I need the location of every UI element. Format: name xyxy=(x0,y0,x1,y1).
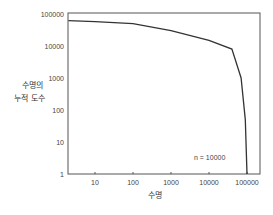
x-tick-label: 1000 xyxy=(163,179,179,186)
x-axis-label: 수명 xyxy=(148,190,162,200)
chart-svg: 110100100010000100000 101001000100001000… xyxy=(0,0,273,215)
y-tick-label: 100 xyxy=(52,107,64,114)
x-tick-label: 10000 xyxy=(199,179,219,186)
chart: 110100100010000100000 101001000100001000… xyxy=(0,0,273,215)
y-axis-label-line2: 누적 도수 xyxy=(14,93,45,103)
y-tick-label: 100000 xyxy=(41,11,64,18)
annotation-n: n = 10000 xyxy=(194,154,225,161)
y-axis-label-line1: 수명의 xyxy=(22,80,43,90)
y-tick-label: 1000 xyxy=(48,75,64,82)
y-tick-label: 10000 xyxy=(45,43,65,50)
y-tick-label: 10 xyxy=(56,139,64,146)
x-tick-label: 100000 xyxy=(235,179,258,186)
x-tick-label: 100 xyxy=(127,179,139,186)
y-tick-label: 1 xyxy=(60,171,64,178)
data-line xyxy=(68,21,247,174)
plot-frame xyxy=(68,13,260,174)
x-tick-label: 10 xyxy=(91,179,99,186)
